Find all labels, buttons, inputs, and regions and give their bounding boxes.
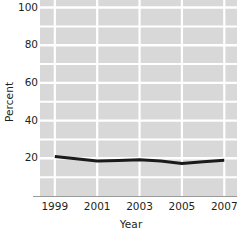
x-tick-label: 1999 — [35, 200, 75, 212]
x-axis-title: Year — [40, 218, 222, 230]
x-tick-label: 2003 — [120, 200, 160, 212]
x-tick-label: 2001 — [77, 200, 117, 212]
line-chart: Percent 20406080100 19992001200320052007… — [0, 0, 237, 235]
x-tick-label: 2007 — [204, 200, 237, 212]
x-axis-tick-labels: 19992001200320052007 — [0, 0, 237, 235]
x-tick-label: 2005 — [162, 200, 202, 212]
